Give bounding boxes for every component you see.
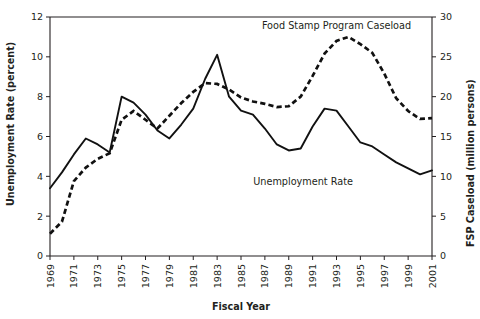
y-tick-label-left: 0 [37,250,43,261]
x-tick-label: 1989 [283,264,294,288]
y-tick-label-right: 10 [440,171,452,182]
x-tick-label: 1971 [68,264,79,288]
x-tick-label: 1995 [355,264,366,288]
chart-container: 024681012 051015202530 19691971197319751… [0,0,480,319]
y-tick-label-left: 2 [37,211,43,222]
series-line-fsp-caseload [50,37,432,234]
y-tick-label-right: 20 [440,91,452,102]
y-axis-right-ticks: 051015202530 [432,11,452,261]
series-line-unemployment-rate [50,55,432,188]
y-axis-left-ticks: 024681012 [31,11,50,261]
data-series-group [50,37,432,234]
x-tick-label: 1999 [403,264,414,288]
y-tick-label-right: 15 [440,131,452,142]
series-label-fsp-caseload: Food Stamp Program Caseload [262,20,411,31]
x-tick-label: 1993 [331,264,342,288]
x-tick-label: 2001 [427,264,438,288]
y-tick-label-right: 0 [440,250,446,261]
x-tick-label: 1983 [212,264,223,288]
y-tick-label-right: 5 [440,211,446,222]
plot-frame [50,17,432,256]
x-tick-label: 1969 [45,264,56,288]
line-chart: 024681012 051015202530 19691971197319751… [0,0,480,319]
y-tick-label-right: 25 [440,51,452,62]
y-tick-label-left: 10 [31,51,43,62]
x-tick-label: 1987 [259,264,270,288]
y-tick-label-left: 4 [37,171,43,182]
x-axis-title: Fiscal Year [212,301,270,312]
x-tick-label: 1997 [379,264,390,288]
y-tick-label-left: 12 [31,11,43,22]
y-tick-label-left: 6 [37,131,43,142]
x-tick-label: 1991 [307,264,318,288]
x-tick-label: 1977 [140,264,151,288]
y-tick-label-right: 30 [440,11,452,22]
y-tick-label-left: 8 [37,91,43,102]
x-axis-ticks: 1969197119731975197719791981198319851987… [45,256,438,288]
y-axis-right-title: FSP Caseload (million persons) [465,79,476,247]
x-tick-label: 1985 [236,264,247,288]
x-tick-label: 1981 [188,264,199,288]
x-tick-label: 1973 [92,264,103,288]
x-tick-label: 1975 [116,264,127,288]
y-axis-left-title: Unemployment Rate (percent) [5,42,16,206]
series-label-unemployment-rate: Unemployment Rate [253,176,353,187]
x-tick-label: 1979 [164,264,175,288]
